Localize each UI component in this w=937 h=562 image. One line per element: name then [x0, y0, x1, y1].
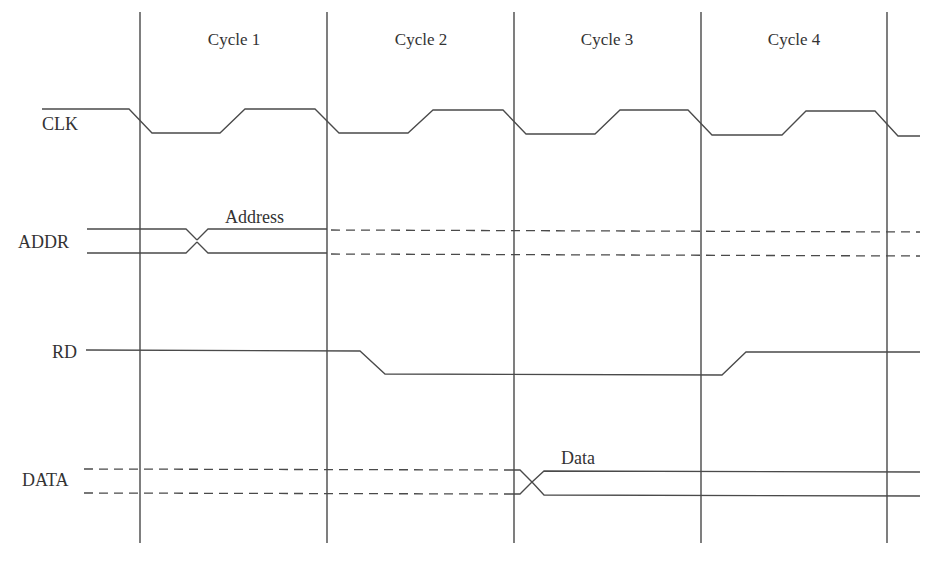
data-upper-dashed: [84, 469, 512, 470]
addr-upper-post: [197, 229, 327, 240]
addr-label: ADDR: [18, 232, 69, 252]
clk-signal: CLK: [42, 109, 920, 136]
timing-diagram: Cycle 1 Cycle 2 Cycle 3 Cycle 4 CLK ADDR…: [0, 0, 937, 562]
data-lower-valid: [512, 482, 920, 496]
clk-waveform: [84, 109, 920, 136]
cycle-3-label: Cycle 3: [581, 30, 633, 49]
data-upper-valid: [512, 470, 920, 482]
addr-upper-pre: [87, 229, 197, 240]
data-lower-dashed: [84, 493, 512, 494]
addr-lower-dashed: [331, 254, 920, 256]
clk-label: CLK: [42, 114, 78, 134]
rd-waveform: [86, 350, 920, 375]
data-signal: DATA Data: [22, 448, 920, 496]
cycle-1-label: Cycle 1: [208, 30, 260, 49]
data-annotation: Data: [561, 448, 595, 468]
addr-signal: ADDR Address: [18, 207, 920, 256]
data-label: DATA: [22, 470, 69, 490]
addr-upper-dashed: [331, 230, 920, 232]
address-annotation: Address: [225, 207, 284, 227]
cycle-2-label: Cycle 2: [395, 30, 447, 49]
addr-lower-pre: [87, 242, 197, 253]
rd-signal: RD: [52, 342, 920, 375]
addr-lower-post: [197, 242, 327, 253]
rd-label: RD: [52, 342, 77, 362]
cycle-boundaries: [140, 12, 887, 543]
cycle-4-label: Cycle 4: [768, 30, 821, 49]
